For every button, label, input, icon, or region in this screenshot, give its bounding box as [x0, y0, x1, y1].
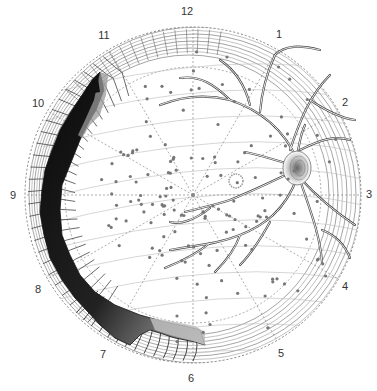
fovea-center	[191, 193, 195, 197]
clock-label-1: 1	[276, 29, 282, 40]
clock-label-3: 3	[366, 189, 372, 200]
clock-label-10: 10	[32, 98, 44, 109]
clock-label-9: 9	[10, 190, 16, 201]
clock-label-6: 6	[188, 373, 194, 384]
clock-label-5: 5	[278, 348, 284, 359]
macula-ring	[229, 174, 243, 188]
retinal-diagram: 121234567891011	[0, 0, 377, 391]
retinal-vessels	[160, 47, 355, 272]
clock-label-8: 8	[35, 284, 41, 295]
clock-label-12: 12	[181, 6, 193, 17]
clock-label-2: 2	[342, 97, 348, 108]
clock-label-7: 7	[100, 349, 106, 360]
clock-label-11: 11	[98, 30, 109, 41]
clock-label-4: 4	[342, 281, 348, 292]
lattice-dots	[100, 50, 337, 343]
fundus-drawing	[0, 0, 377, 391]
